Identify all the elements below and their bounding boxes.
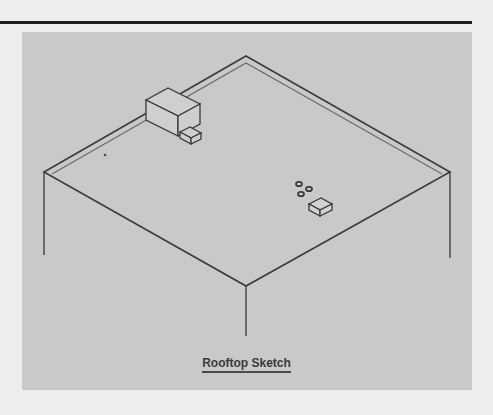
- roof-outline-outer: [44, 56, 450, 286]
- caption-text: Rooftop Sketch: [202, 356, 291, 373]
- vent-3: [298, 192, 304, 196]
- roof-dot: [104, 154, 107, 157]
- small-unit: [309, 198, 332, 216]
- figure-caption: Rooftop Sketch: [0, 356, 493, 370]
- vent-2: [306, 187, 312, 191]
- rooftop-sketch: [0, 0, 493, 415]
- vent-1: [296, 182, 302, 186]
- roof-parapet-inner: [52, 63, 442, 174]
